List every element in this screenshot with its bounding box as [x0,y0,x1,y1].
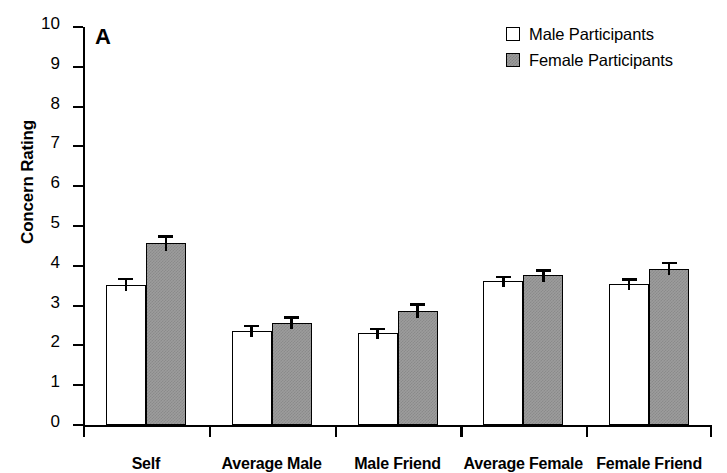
error-bar [496,276,511,287]
x-tick [586,425,588,437]
x-tick-label: Female Friend [586,455,712,473]
y-tick-label: 8 [30,95,60,112]
y-tick-label: 5 [30,214,60,231]
x-tick-label: Male Friend [335,455,461,473]
x-axis-line [83,425,712,427]
x-tick [460,425,462,437]
error-bar [118,278,133,292]
plot-area: 109876543210 SelfAverage MaleMale Friend… [83,27,712,425]
bar [358,333,398,425]
y-tick-label: 6 [30,174,60,191]
error-bar-stem [290,316,293,330]
bar [232,331,272,425]
y-tick-label: 3 [30,294,60,311]
error-bar [410,303,425,318]
y-tick: 8 [73,106,83,108]
x-tick-label: Self [83,455,209,473]
error-bar [622,278,637,290]
x-tick [335,425,337,437]
bar [649,269,689,425]
error-bar-stem [125,278,128,292]
bar [146,243,186,425]
y-tick: 9 [73,66,83,68]
error-bar-stem [416,303,419,318]
error-bar [662,262,677,276]
y-tick-label: 1 [30,373,60,390]
y-tick: 3 [73,305,83,307]
error-bar-stem [502,276,505,287]
bar [483,281,523,425]
error-bar [158,235,173,251]
error-bar [536,269,551,282]
error-bar-stem [542,269,545,282]
y-tick: 10 [73,26,83,28]
y-tick-label: 2 [30,333,60,350]
y-tick: 2 [73,344,83,346]
y-tick: 0 [73,424,83,426]
x-tick [83,425,85,437]
x-tick-label: Average Female [460,455,586,473]
y-tick-label: 7 [30,134,60,151]
bar [106,285,146,425]
error-bar-stem [628,278,631,290]
x-tick [209,425,211,437]
y-tick: 7 [73,145,83,147]
bar [398,311,438,425]
y-tick-label: 4 [30,254,60,271]
y-axis-line [83,27,85,425]
y-tick-label: 0 [30,413,60,430]
error-bar [244,325,259,337]
bar [523,275,563,425]
error-bar-stem [165,235,168,251]
y-tick: 1 [73,384,83,386]
y-tick-label: 10 [30,15,60,32]
x-tick-label: Average Male [209,455,335,473]
error-bar-stem [668,262,671,276]
error-bar-stem [250,325,253,337]
y-tick-label: 9 [30,55,60,72]
bar [609,284,649,425]
x-tick [710,425,712,437]
error-bar-stem [376,328,379,339]
error-bar [370,328,385,339]
y-tick: 4 [73,265,83,267]
error-bar [284,316,299,330]
y-tick: 6 [73,185,83,187]
y-tick: 5 [73,225,83,227]
bar [272,323,312,425]
